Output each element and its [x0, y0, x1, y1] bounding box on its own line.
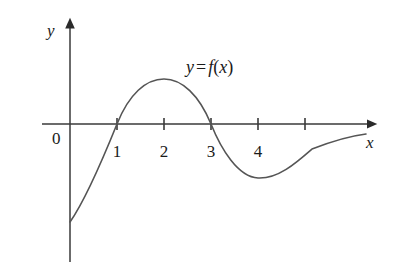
tick-label-x-1: 1: [111, 143, 123, 160]
equation-equals: =: [194, 57, 208, 77]
x-axis-label: x: [366, 134, 374, 151]
equation-argument: x: [219, 57, 227, 77]
tick-label-x-3: 3: [205, 143, 217, 160]
equation-lhs: y: [186, 57, 194, 77]
function-graph-figure: y x 0 1 2 3 4 y=f(x): [0, 0, 402, 272]
y-axis-label: y: [47, 22, 55, 39]
tick-label-x-4: 4: [252, 143, 264, 160]
curve-equation-label: y=f(x): [186, 58, 233, 76]
equation-close-paren: ): [227, 57, 233, 77]
origin-label: 0: [52, 130, 61, 147]
tick-label-x-2: 2: [158, 143, 170, 160]
